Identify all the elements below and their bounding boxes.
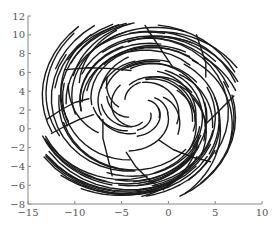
x-tick-label: 10 bbox=[256, 207, 269, 218]
x-tick-label: 5 bbox=[212, 207, 218, 218]
trajectory-strand bbox=[46, 33, 74, 135]
x-tick-label: −10 bbox=[64, 207, 85, 218]
y-tick-label: 8 bbox=[19, 48, 25, 59]
y-tick-label: 4 bbox=[19, 86, 25, 97]
y-tick-label: 0 bbox=[19, 123, 25, 134]
y-tick-label: −2 bbox=[10, 142, 25, 153]
y-tick-label: 10 bbox=[12, 29, 25, 40]
y-tick-label: −4 bbox=[10, 161, 25, 172]
y-tick-label: −6 bbox=[10, 180, 25, 191]
trajectory-strand bbox=[138, 113, 152, 130]
y-tick-label: 2 bbox=[19, 105, 25, 116]
trajectory-strand bbox=[148, 100, 159, 117]
y-tick-label: −8 bbox=[10, 199, 25, 210]
trajectory-strand bbox=[130, 77, 196, 122]
y-tick-label: 6 bbox=[19, 67, 25, 78]
spiral-trajectory-chart: −15−10−50510 −8−6−4−2024681012 bbox=[0, 0, 280, 229]
trajectory-strand bbox=[125, 82, 140, 99]
y-tick-label: 12 bbox=[12, 11, 25, 22]
x-tick-label: −5 bbox=[114, 207, 129, 218]
x-tick-label: 0 bbox=[165, 207, 171, 218]
